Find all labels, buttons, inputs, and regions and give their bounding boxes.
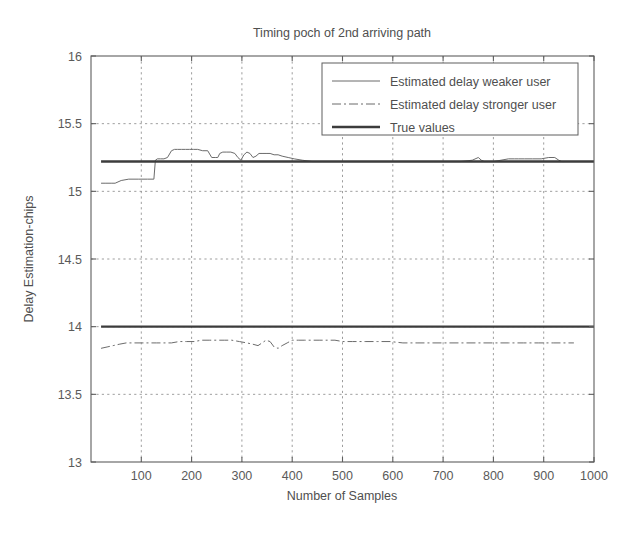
y-tick-label: 16 (68, 50, 82, 64)
series-line (101, 149, 565, 183)
chart-title: Timing poch of 2nd arriving path (253, 26, 431, 40)
x-tick-label: 200 (181, 469, 202, 483)
y-tick-label: 14 (68, 320, 82, 334)
y-axis-title: Delay Estimation-chips (22, 195, 36, 322)
legend-label: True values (390, 121, 455, 135)
y-tick-label: 15.5 (58, 117, 82, 131)
x-tick-label: 1000 (580, 469, 608, 483)
legend[interactable]: Estimated delay weaker userEstimated del… (322, 63, 578, 135)
legend-label: Estimated delay stronger user (390, 98, 556, 112)
series-line (101, 340, 574, 348)
x-tick-label: 900 (533, 469, 554, 483)
y-tick-label: 15 (68, 185, 82, 199)
x-tick-label: 100 (131, 469, 152, 483)
x-tick-label: 400 (282, 469, 303, 483)
y-tick-label: 13.5 (58, 388, 82, 402)
y-tick-label: 13 (68, 456, 82, 470)
legend-label: Estimated delay weaker user (390, 75, 551, 89)
x-tick-label: 600 (382, 469, 403, 483)
x-tick-label: 300 (231, 469, 252, 483)
x-axis-title: Number of Samples (287, 489, 397, 503)
x-tick-label: 700 (433, 469, 454, 483)
x-tick-label: 500 (332, 469, 353, 483)
chart-figure: Timing poch of 2nd arriving path 1002003… (0, 0, 644, 533)
x-tick-labels: 1002003004005006007008009001000 (131, 469, 608, 483)
data-series-group (101, 149, 594, 348)
y-tick-label: 14.5 (58, 253, 82, 267)
y-tick-labels: 1313.51414.51515.516 (58, 50, 82, 470)
chart-svg: Timing poch of 2nd arriving path 1002003… (0, 0, 644, 533)
x-tick-label: 800 (483, 469, 504, 483)
